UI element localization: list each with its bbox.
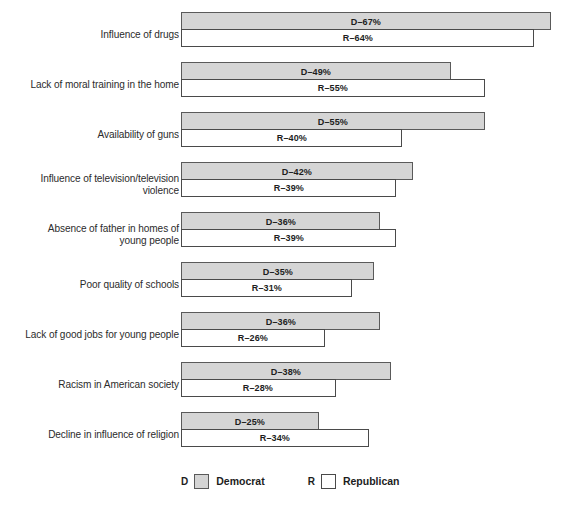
bar-value-label: D–25% — [235, 416, 265, 427]
legend-key-democrat: D — [181, 476, 188, 487]
bar-republican: R–39% — [181, 229, 396, 247]
chart-legend: D Democrat R Republican — [181, 472, 400, 490]
chart-row: Influence of television/televisionviolen… — [0, 162, 568, 212]
bar-democrat: D–36% — [181, 312, 380, 330]
legend-key-republican: R — [308, 476, 315, 487]
bar-value-label: R–39% — [274, 182, 304, 193]
bar-group: D–42%R–39% — [181, 162, 413, 197]
category-label-line: Influence of drugs — [101, 28, 179, 41]
category-label-line: Availability of guns — [98, 128, 179, 141]
chart-row: Racism in American societyD–38%R–28% — [0, 362, 568, 412]
bar-republican: R–40% — [181, 129, 402, 147]
category-label: Availability of guns — [0, 112, 179, 156]
legend-label-republican: Republican — [343, 475, 400, 487]
bar-value-label: D–67% — [351, 16, 381, 27]
chart-row: Influence of drugsD–67%R–64% — [0, 12, 568, 62]
legend-item-democrat: D Democrat — [181, 474, 265, 489]
category-label-line: young people — [120, 234, 179, 247]
bar-value-label: D–38% — [271, 366, 301, 377]
legend-label-democrat: Democrat — [216, 475, 264, 487]
bar-value-label: R–64% — [343, 32, 373, 43]
category-label-line: Influence of television/television — [40, 172, 179, 185]
bar-republican: R–31% — [181, 279, 352, 297]
category-label: Lack of moral training in the home — [0, 62, 179, 106]
chart-row: Absence of father in homes ofyoung peopl… — [0, 212, 568, 262]
bar-value-label: D–35% — [263, 266, 293, 277]
chart-row: Decline in influence of religionD–25%R–3… — [0, 412, 568, 462]
bar-republican: R–39% — [181, 179, 396, 197]
category-label: Poor quality of schools — [0, 262, 179, 306]
category-label-line: Absence of father in homes of — [48, 222, 179, 235]
bar-value-label: R–26% — [238, 332, 268, 343]
category-label: Influence of drugs — [0, 12, 179, 56]
chart-row: Availability of gunsD–55%R–40% — [0, 112, 568, 162]
bar-democrat: D–49% — [181, 62, 451, 80]
category-label-line: Racism in American society — [58, 378, 179, 391]
category-label-line: violence — [143, 184, 179, 197]
legend-swatch-democrat-icon — [194, 474, 209, 489]
bar-value-label: D–36% — [265, 316, 295, 327]
bar-group: D–55%R–40% — [181, 112, 485, 147]
bar-value-label: R–28% — [243, 382, 273, 393]
bar-democrat: D–55% — [181, 112, 485, 130]
bar-democrat: D–42% — [181, 162, 413, 180]
bar-group: D–38%R–28% — [181, 362, 391, 397]
bar-group: D–35%R–31% — [181, 262, 374, 297]
category-label: Racism in American society — [0, 362, 179, 406]
bar-democrat: D–25% — [181, 412, 319, 430]
legend-swatch-republican-icon — [321, 474, 336, 489]
bar-democrat: D–38% — [181, 362, 391, 380]
chart-row: Lack of good jobs for young peopleD–36%R… — [0, 312, 568, 362]
bar-value-label: R–34% — [260, 432, 290, 443]
bar-republican: R–55% — [181, 79, 485, 97]
bar-value-label: D–36% — [265, 216, 295, 227]
bar-value-label: D–42% — [282, 166, 312, 177]
bar-republican: R–64% — [181, 29, 534, 47]
bar-group: D–67%R–64% — [181, 12, 551, 47]
bar-value-label: R–40% — [276, 132, 306, 143]
category-label: Lack of good jobs for young people — [0, 312, 179, 356]
bar-republican: R–34% — [181, 429, 369, 447]
bar-group: D–36%R–39% — [181, 212, 396, 247]
category-label-line: Decline in influence of religion — [48, 428, 179, 441]
bar-value-label: R–39% — [274, 232, 304, 243]
bar-democrat: D–67% — [181, 12, 551, 30]
bar-value-label: R–55% — [318, 82, 348, 93]
category-label-line: Lack of good jobs for young people — [25, 328, 179, 341]
category-label-line: Lack of moral training in the home — [30, 78, 179, 91]
legend-item-republican: R Republican — [308, 474, 400, 489]
bar-value-label: D–55% — [318, 116, 348, 127]
grouped-bar-chart: Influence of drugsD–67%R–64%Lack of mora… — [0, 0, 568, 510]
category-label: Absence of father in homes ofyoung peopl… — [0, 212, 179, 256]
bar-democrat: D–35% — [181, 262, 374, 280]
category-label: Influence of television/televisionviolen… — [0, 162, 179, 206]
bar-value-label: R–31% — [252, 282, 282, 293]
bar-value-label: D–49% — [301, 66, 331, 77]
chart-row: Poor quality of schoolsD–35%R–31% — [0, 262, 568, 312]
bar-republican: R–28% — [181, 379, 336, 397]
bar-group: D–49%R–55% — [181, 62, 485, 97]
category-label-line: Poor quality of schools — [80, 278, 179, 291]
bar-republican: R–26% — [181, 329, 325, 347]
chart-row: Lack of moral training in the homeD–49%R… — [0, 62, 568, 112]
cut-off-title — [0, 0, 568, 7]
bar-democrat: D–36% — [181, 212, 380, 230]
bar-group: D–36%R–26% — [181, 312, 380, 347]
category-label: Decline in influence of religion — [0, 412, 179, 456]
bar-group: D–25%R–34% — [181, 412, 369, 447]
